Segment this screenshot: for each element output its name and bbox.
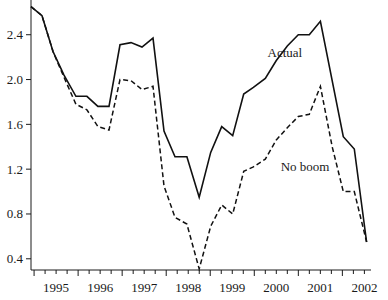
x-tick-label: 1998 xyxy=(175,280,201,295)
x-tick-label: 1999 xyxy=(219,280,245,295)
x-ticks: 19951996199719981999200020012002 xyxy=(34,270,377,295)
y-ticks: 0.40.81.21.62.02.4 xyxy=(7,27,31,266)
annotations: ActualNo boom xyxy=(268,45,330,174)
series-line-no-boom xyxy=(31,7,367,269)
axes xyxy=(31,0,371,270)
series-line-actual xyxy=(31,7,367,242)
x-tick-label: 1995 xyxy=(43,280,69,295)
x-tick-label: 2001 xyxy=(307,280,333,295)
y-tick-label: 1.2 xyxy=(7,162,23,177)
x-tick-label: 1996 xyxy=(87,280,114,295)
x-tick-label: 2002 xyxy=(351,280,377,295)
series-label-actual: Actual xyxy=(268,45,303,60)
y-tick-label: 2.4 xyxy=(7,27,24,42)
line-chart: 0.40.81.21.62.02.4 199519961997199819992… xyxy=(0,0,388,300)
y-tick-label: 0.4 xyxy=(7,251,24,266)
series-label-no-boom: No boom xyxy=(281,159,330,174)
y-tick-label: 2.0 xyxy=(7,72,23,87)
x-tick-label: 2000 xyxy=(263,280,289,295)
series-group xyxy=(31,7,367,269)
x-tick-label: 1997 xyxy=(131,280,158,295)
y-tick-label: 1.6 xyxy=(7,117,24,132)
y-tick-label: 0.8 xyxy=(7,206,23,221)
